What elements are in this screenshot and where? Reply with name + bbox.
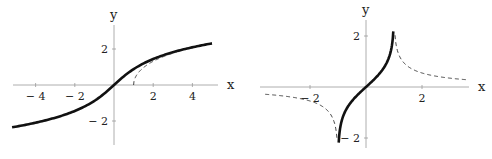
y-axis-label: y (109, 7, 118, 22)
plot-right: xy− 222− 2 (260, 2, 486, 148)
y-axis-label: y (361, 2, 370, 17)
x-axis-label: x (478, 79, 486, 94)
x-tick-label: 2 (419, 92, 426, 105)
y-tick-label: 2 (353, 30, 360, 43)
x-axis-label: x (227, 77, 235, 92)
x-tick-label: 2 (150, 90, 157, 103)
x-tick-label: − 4 (26, 90, 46, 103)
x-tick-label: 4 (189, 90, 196, 103)
y-tick-label: − 2 (88, 115, 108, 128)
y-tick-label: − 2 (340, 132, 360, 145)
plot-left: xy− 4− 2242− 2 (12, 7, 235, 145)
chart-canvas: xy− 4− 2242− 2 xy− 222− 2 (0, 0, 492, 159)
series-arccoth-x-x-line (395, 35, 467, 80)
y-tick-label: 2 (101, 43, 108, 56)
x-tick-label: − 2 (65, 90, 85, 103)
